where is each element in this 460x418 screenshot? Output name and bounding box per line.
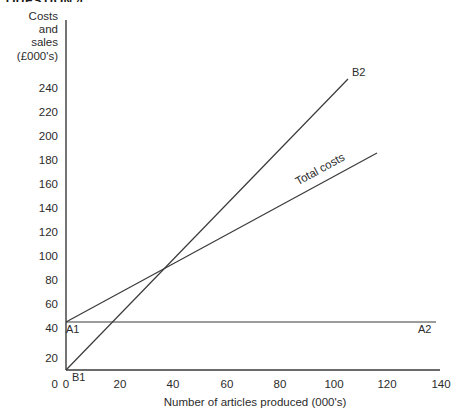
break-even-chart: QUESTION 4 Costs and sales (£000's) 240 … [0,0,460,418]
point-label-b2: B2 [352,66,365,78]
series-line-total-costs [66,153,377,322]
plot-lines [0,0,460,418]
x-axis-title: Number of articles produced (000's) [0,396,460,408]
point-label-a1: A1 [66,323,79,335]
point-label-b1: B1 [72,371,85,383]
point-label-a2: A2 [418,323,431,335]
series-line-sales [66,79,348,370]
